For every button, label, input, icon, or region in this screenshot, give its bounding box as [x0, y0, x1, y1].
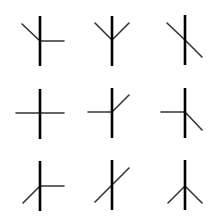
glyph-branch	[185, 112, 202, 130]
glyph-r1c3	[167, 15, 202, 65]
glyph-branch	[112, 23, 129, 40]
glyph-branch	[95, 23, 112, 40]
glyph-r2c2	[88, 88, 129, 138]
glyph-r3c1	[23, 161, 64, 211]
glyph-grid	[0, 0, 216, 218]
glyph-branch	[23, 186, 40, 203]
glyph-branch	[167, 23, 185, 40]
glyph-r2c1	[16, 89, 64, 139]
glyph-branch	[95, 185, 112, 202]
glyph-r3c2	[95, 160, 129, 210]
glyph-branch	[112, 168, 129, 185]
glyph-r1c2	[95, 16, 129, 66]
glyph-branch	[112, 95, 129, 112]
glyph-branch	[168, 186, 185, 203]
glyph-r2c3	[161, 88, 202, 138]
glyph-r1c1	[22, 16, 64, 66]
glyph-r3c3	[168, 160, 202, 210]
glyph-branch	[185, 40, 202, 57]
glyph-branch	[22, 24, 40, 41]
glyph-branch	[185, 186, 202, 203]
